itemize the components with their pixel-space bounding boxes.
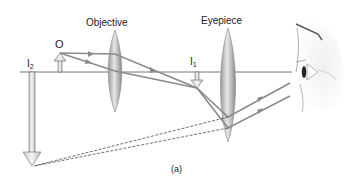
image1-label-sub: 1 — [193, 61, 197, 68]
objective-label: Objective — [86, 17, 128, 28]
image2-label-sub: 2 — [30, 63, 34, 70]
virtual-ray-extensions — [34, 117, 228, 166]
object-arrow — [54, 53, 66, 72]
image1-label: I1 — [190, 56, 197, 68]
microscope-diagram — [0, 0, 350, 180]
image2-label: I2 — [27, 58, 34, 70]
final-image-arrow — [23, 72, 41, 166]
eye-illustration — [294, 20, 343, 112]
figure-caption: (a) — [171, 164, 182, 174]
eyepiece-label: Eyepiece — [201, 15, 242, 26]
objective-rays — [60, 53, 290, 128]
object-label: O — [55, 38, 64, 50]
